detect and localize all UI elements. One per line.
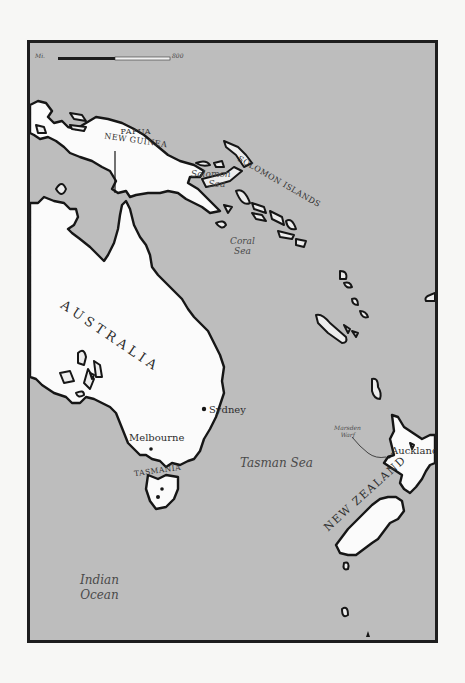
- label-solomon-sea: Solomon Sea: [191, 169, 231, 189]
- label-marsden-warf: Marsden Warf: [334, 424, 361, 438]
- scale-bar: [58, 57, 170, 60]
- scale-max-label: 800: [172, 53, 183, 59]
- scale-unit-label: Mi.: [35, 53, 45, 59]
- melbourne-marker: [149, 447, 153, 451]
- vanuatu-islands: [340, 271, 368, 337]
- label-sydney: Sydney: [209, 405, 246, 415]
- sydney-marker: [202, 407, 206, 411]
- label-coral-sea: Coral Sea: [230, 236, 255, 256]
- australia-landmass: [30, 197, 224, 467]
- label-papua-new-guinea: PAPUA NEW GUINEA: [104, 127, 168, 145]
- label-tasman-sea: Tasman Sea: [240, 457, 313, 469]
- label-indian-ocean: Indian Ocean: [80, 573, 119, 603]
- label-melbourne: Melbourne: [129, 433, 184, 443]
- new-guinea-landmass: [30, 101, 220, 213]
- tasmania-landmass: [146, 475, 178, 509]
- map-frame: Mi. 800 PAPUA NEW GUINEA Solomon Sea SOL…: [27, 40, 438, 643]
- map-canvas: [30, 43, 435, 640]
- new-caledonia: [316, 315, 347, 343]
